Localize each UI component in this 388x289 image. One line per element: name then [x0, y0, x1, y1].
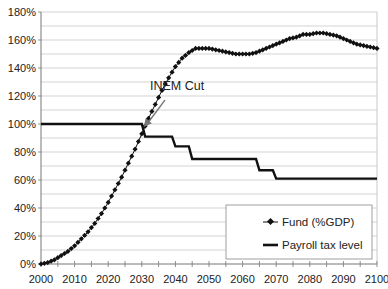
legend-payroll-label: Payroll tax level: [282, 239, 363, 251]
x-tick-label: 2090: [331, 273, 355, 285]
x-tick-label: 2000: [29, 273, 53, 285]
legend-fund-label: Fund (%GDP): [282, 216, 354, 228]
x-tick-label: 2100: [365, 273, 388, 285]
x-tick-label: 2070: [264, 273, 288, 285]
x-tick-label: 2040: [163, 273, 187, 285]
y-tick-label: 160%: [8, 34, 36, 46]
y-tick-label: 40%: [14, 202, 36, 214]
y-tick-label: 20%: [14, 230, 36, 242]
chart: 0%20%40%60%80%100%120%140%160%180% 20002…: [0, 0, 388, 289]
legend: Fund (%GDP) Payroll tax level: [226, 205, 372, 259]
y-tick-label: 0%: [20, 258, 36, 270]
x-axis-labels: 2000201020202030204020502060207020802090…: [29, 273, 388, 285]
y-tick-label: 140%: [8, 62, 36, 74]
x-tick-label: 2080: [298, 273, 322, 285]
y-tick-label: 60%: [14, 174, 36, 186]
x-tick-label: 2060: [230, 273, 254, 285]
y-tick-label: 80%: [14, 146, 36, 158]
y-tick-label: 180%: [8, 6, 36, 18]
x-tick-label: 2050: [197, 273, 221, 285]
x-tick-label: 2020: [96, 273, 120, 285]
x-tick-label: 2010: [62, 273, 86, 285]
annotation-label: INEM Cut: [150, 79, 205, 93]
y-tick-label: 100%: [8, 118, 36, 130]
x-tick-label: 2030: [130, 273, 154, 285]
y-tick-label: 120%: [8, 90, 36, 102]
